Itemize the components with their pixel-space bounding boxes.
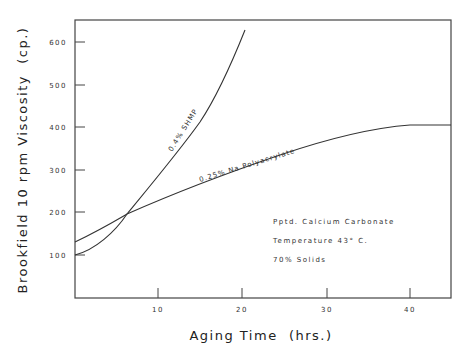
y-tick-500: 500: [49, 82, 67, 90]
shmp-curve: [75, 30, 245, 255]
x-axis: [158, 288, 410, 298]
annotation-solids: 70% Solids: [273, 256, 327, 264]
y-tick-200: 200: [49, 209, 67, 217]
annotation-material: Pptd. Calcium Carbonate: [273, 218, 395, 226]
x-tick-30: 30: [321, 306, 333, 314]
y-tick-100: 100: [49, 252, 67, 260]
y-axis: [75, 42, 85, 255]
x-tick-40: 40: [404, 306, 416, 314]
y-tick-300: 300: [49, 167, 67, 175]
shmp-label: 0.4% SHMP: [167, 107, 200, 153]
x-tick-10: 10: [152, 306, 164, 314]
polyacrylate-label: 0.25% Na Polyacrylate: [198, 147, 296, 184]
chart: 100 200 300 400 500 600 10 20 30 40 Agin…: [0, 0, 464, 360]
x-axis-title: Aging Time (hrs.): [189, 328, 332, 343]
annotation-temperature: Temperature 43° C.: [272, 237, 368, 245]
y-tick-600: 600: [49, 39, 67, 47]
x-tick-labels: 10 20 30 40: [152, 306, 416, 314]
y-axis-title: Brookfield 10 rpm Viscosity (cp.): [15, 27, 30, 294]
x-tick-20: 20: [236, 306, 248, 314]
y-tick-labels: 100 200 300 400 500 600: [49, 39, 67, 260]
y-tick-400: 400: [49, 124, 67, 132]
